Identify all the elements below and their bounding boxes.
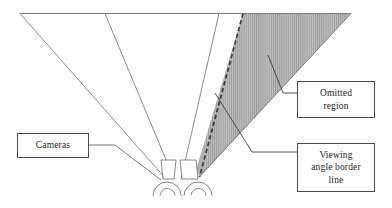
camera-lens-left [153, 182, 181, 196]
camera-body-left [161, 160, 176, 179]
left-cone-right-edge [105, 14, 174, 180]
callout-omitted-region: Omitted region [297, 81, 375, 118]
callout-omitted-region-label: Omitted region [320, 87, 352, 111]
callout-viewing-angle-border-line: Viewing angle border line [297, 143, 375, 192]
camera-body-right [180, 160, 198, 179]
camera-lens-right [184, 182, 212, 196]
figure-canvas: Cameras Omitted region Viewing angle bor… [0, 0, 392, 208]
callout-viewing-angle-border-line-label: Viewing angle border line [311, 149, 361, 185]
callout-cameras: Cameras [17, 133, 89, 158]
cameras-leader-line [89, 145, 161, 180]
callout-cameras-label: Cameras [36, 139, 70, 151]
